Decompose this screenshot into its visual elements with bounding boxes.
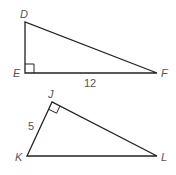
triangle-jkl: J K L 5: [15, 88, 167, 163]
vertex-label-k: K: [15, 151, 23, 163]
vertex-label-j: J: [47, 88, 54, 100]
vertex-label-e: E: [13, 67, 21, 79]
triangle-def-outline: [25, 22, 157, 73]
side-label-ef: 12: [84, 77, 96, 89]
diagram-canvas: D E F 12 J K L 5: [0, 0, 176, 175]
vertex-label-d: D: [20, 8, 28, 20]
vertex-label-l: L: [161, 151, 167, 163]
right-angle-marker-e: [25, 64, 34, 73]
vertex-label-f: F: [161, 67, 169, 79]
side-label-jk: 5: [28, 120, 34, 132]
triangle-def: D E F 12: [13, 8, 169, 89]
triangle-jkl-outline: [27, 102, 157, 156]
